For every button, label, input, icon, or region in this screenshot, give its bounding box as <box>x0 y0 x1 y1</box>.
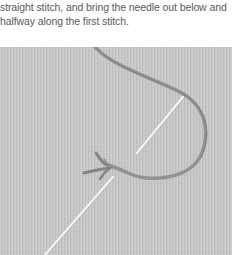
needle-upper <box>137 97 183 153</box>
instruction-caption: straight stitch, and bring the needle ou… <box>0 0 243 28</box>
caption-line-1: straight stitch, and bring the needle ou… <box>0 0 243 14</box>
embroidery-illustration <box>0 47 232 255</box>
embroidery-photo <box>0 47 232 255</box>
needle-lower <box>45 177 113 255</box>
thread-loop <box>95 47 206 178</box>
stitch-knot <box>84 153 110 179</box>
caption-line-2: halfway along the first stitch. <box>0 14 243 28</box>
